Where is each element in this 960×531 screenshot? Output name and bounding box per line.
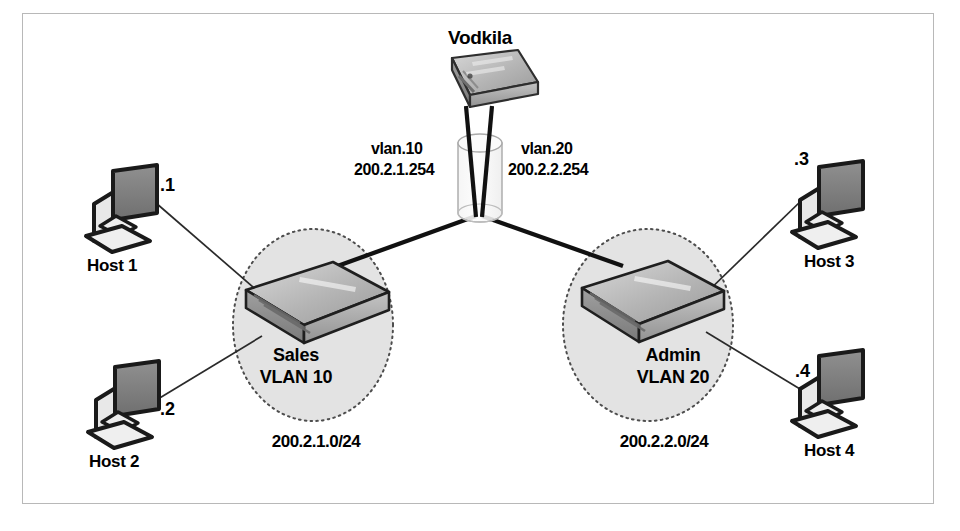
host4-ip-suffix: .4 xyxy=(795,361,810,381)
host3-label: Host 3 xyxy=(804,252,854,271)
host1-ip-suffix: .1 xyxy=(160,175,175,195)
link-host3-switch-admin xyxy=(700,199,803,299)
trunk-cylinder-icon xyxy=(458,134,502,222)
trunk-links xyxy=(332,216,623,268)
router-icon xyxy=(452,50,538,107)
computer-icon-host2 xyxy=(88,361,159,448)
host1-label: Host 1 xyxy=(87,256,137,275)
computer-icon-host3 xyxy=(792,161,863,248)
vlan-admin-id-label: VLAN 20 xyxy=(637,367,710,387)
trunk-left-ip-label: 200.2.1.254 xyxy=(354,161,434,179)
trunk-left-vlan-label: vlan.10 xyxy=(371,140,422,158)
vlan-sales-subnet: 200.2.1.0/24 xyxy=(272,432,361,451)
trunk-link-admin xyxy=(482,216,623,266)
computer-icon-host1 xyxy=(86,165,157,252)
diagram-canvas: Vodkila vlan.10 200.2.1.254 vlan.20 200.… xyxy=(0,0,960,531)
vlan-admin-name: Admin xyxy=(646,345,701,365)
host2-label: Host 2 xyxy=(89,452,139,471)
trunk-right-ip-label: 200.2.2.254 xyxy=(508,161,588,179)
vlan-admin-subnet: 200.2.2.0/24 xyxy=(620,432,709,451)
host3-ip-suffix: .3 xyxy=(794,149,809,169)
vlan-sales-name: Sales xyxy=(273,345,319,365)
host4-label: Host 4 xyxy=(804,441,854,460)
router-title: Vodkila xyxy=(448,27,512,48)
host2-ip-suffix: .2 xyxy=(160,399,175,419)
link-host1-switch-sales xyxy=(156,203,268,300)
trunk-right-vlan-label: vlan.20 xyxy=(521,140,572,158)
vlan-sales-id-label: VLAN 10 xyxy=(260,367,333,387)
